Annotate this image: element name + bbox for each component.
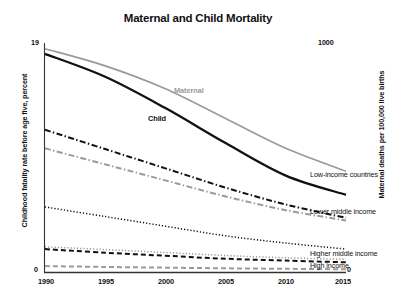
series-line-low-income-countries-maternal <box>45 49 346 172</box>
series-label-low-income: Low-income countries <box>310 170 378 179</box>
x-tick-2015: 2015 <box>335 277 351 286</box>
series-line-lower-middle-income-child <box>45 130 346 218</box>
series-group <box>45 49 346 270</box>
series-label-high-income: High income <box>310 261 349 270</box>
series-line-low-income-countries-child <box>45 54 346 195</box>
series-line-higher-middle-income-child <box>45 207 346 249</box>
x-tick-1995: 1995 <box>98 277 114 286</box>
inline-label-child: Child <box>148 114 166 123</box>
series-line-high-income-maternal <box>45 266 346 269</box>
series-line-higher-middle-income-maternal <box>45 247 346 260</box>
x-tick-2010: 2010 <box>278 277 294 286</box>
chart-figure: Maternal and Child Mortality Childhood f… <box>0 0 396 302</box>
series-label-lower-middle: Lower middle income <box>310 207 376 216</box>
series-line-high-income-child <box>45 249 346 262</box>
inline-label-maternal: Maternal <box>174 86 204 95</box>
series-line-lower-middle-income-maternal <box>45 148 346 220</box>
x-tick-2005: 2005 <box>218 277 234 286</box>
x-tick-1990: 1990 <box>38 277 54 286</box>
axes-group <box>44 43 346 273</box>
series-label-higher-middle: Higher middle income <box>310 249 378 258</box>
x-tick-2000: 2000 <box>158 277 174 286</box>
